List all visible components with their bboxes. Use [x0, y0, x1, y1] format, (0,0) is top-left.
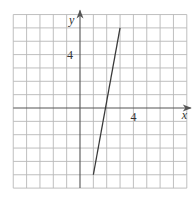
y-axis-label: y	[68, 13, 75, 27]
coordinate-plane: y x 4 4	[0, 0, 195, 197]
grid-lines	[13, 15, 187, 189]
x-tick-label-4: 4	[130, 110, 136, 124]
x-axis-label: x	[181, 108, 188, 122]
y-tick-label-4: 4	[67, 48, 73, 62]
